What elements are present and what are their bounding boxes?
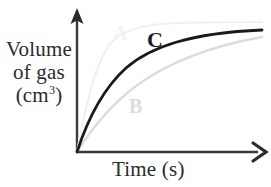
curve-label-c: C (147, 27, 163, 53)
curve-label-a: A (113, 22, 127, 45)
gas-volume-graph-figure: Volume of gas (cm3) Time (s) A B C (0, 0, 271, 187)
y-axis-label-line-1: Volume (2, 38, 76, 61)
x-axis-label: Time (s) (112, 158, 185, 181)
y-axis-label: Volume of gas (cm3) (2, 38, 76, 107)
y-axis-label-line-2: of gas (2, 61, 76, 84)
y-axis-label-line-3: (cm3) (2, 84, 76, 107)
curve-c-path (77, 30, 262, 152)
y-axis-unit-prefix: (cm (16, 83, 49, 107)
curve-label-b: B (129, 95, 142, 118)
curve-a-path (77, 22, 262, 152)
y-axis-unit-suffix: ) (55, 83, 62, 107)
